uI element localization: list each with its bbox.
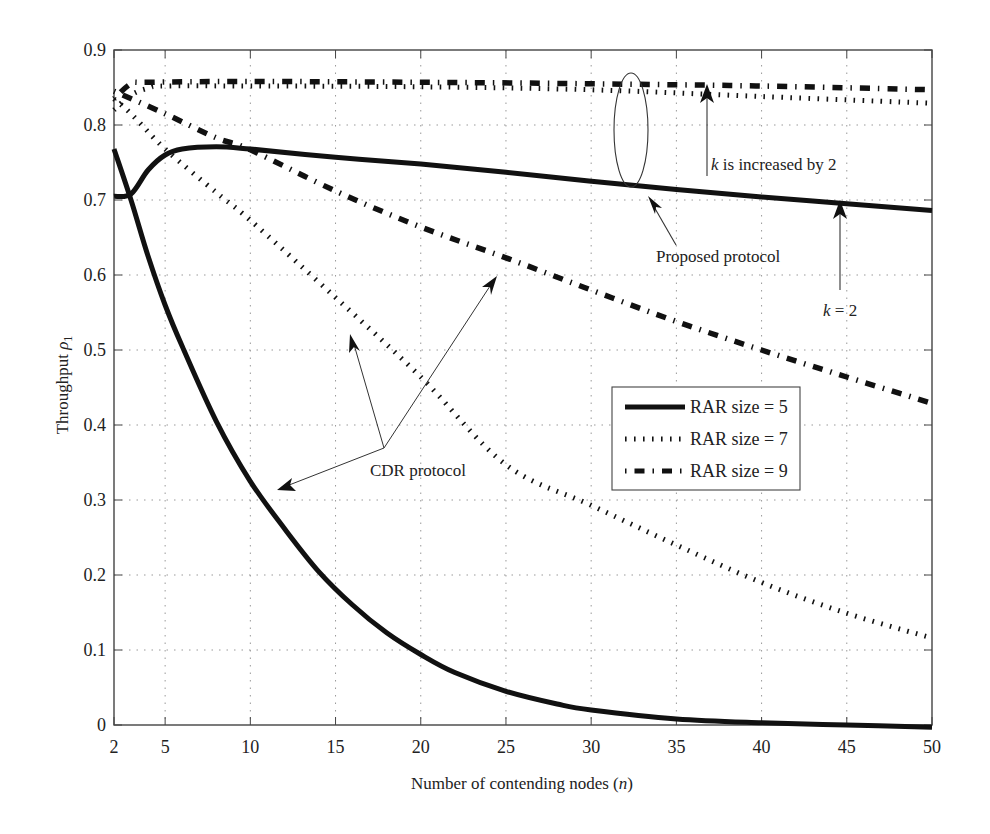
y-tick-label: 0.3 — [84, 490, 107, 510]
x-tick-label: 15 — [327, 737, 345, 757]
cdr-arrow-3 — [384, 283, 492, 448]
grid-lines — [114, 50, 932, 725]
y-tick-label: 0.7 — [84, 190, 107, 210]
k2-label: k = 2 — [823, 301, 857, 320]
y-tick-label: 0.9 — [84, 40, 107, 60]
series-line-5 — [114, 91, 932, 403]
throughput-chart: 2510152025303540455000.10.20.30.40.50.60… — [0, 0, 990, 834]
y-tick-label: 0.5 — [84, 340, 107, 360]
y-tick-label: 0.4 — [84, 415, 107, 435]
legend: RAR size = 5 RAR size = 7 RAR size = 9 — [612, 387, 800, 490]
x-tick-label: 10 — [241, 737, 259, 757]
x-tick-label: 2 — [110, 737, 119, 757]
legend-label-rar5: RAR size = 5 — [690, 397, 788, 417]
proposed-group-ellipse — [614, 73, 648, 187]
x-tick-label: 50 — [923, 737, 941, 757]
y-tick-label: 0.8 — [84, 115, 107, 135]
data-series — [114, 82, 932, 728]
series-line-3 — [114, 99, 932, 638]
x-axis-label: Number of contending nodes (n) — [411, 774, 633, 793]
cdr-arrow-2 — [353, 341, 384, 448]
x-tick-label: 45 — [838, 737, 856, 757]
y-axis-label: Throughput ρ1 — [53, 336, 75, 435]
x-tick-label: 40 — [753, 737, 771, 757]
x-tick-label: 35 — [667, 737, 685, 757]
y-tick-label: 0.2 — [84, 565, 107, 585]
x-tick-label: 30 — [582, 737, 600, 757]
x-tick-label: 25 — [497, 737, 515, 757]
y-tick-label: 0 — [97, 715, 106, 735]
y-tick-label: 0.1 — [84, 640, 107, 660]
x-tick-label: 20 — [412, 737, 430, 757]
series-line-1 — [114, 149, 932, 727]
cdr-protocol-label: CDR protocol — [370, 461, 466, 480]
legend-label-rar7: RAR size = 7 — [690, 429, 788, 449]
arrowhead-icon — [277, 478, 296, 491]
legend-label-rar9: RAR size = 9 — [690, 461, 788, 481]
proposed-protocol-label: Proposed protocol — [656, 247, 780, 266]
y-tick-label: 0.6 — [84, 265, 107, 285]
cdr-arrow-1 — [284, 448, 384, 487]
arrowhead-icon — [648, 196, 662, 214]
k-increased-label: k is increased by 2 — [711, 155, 837, 174]
proposed-arrow — [653, 205, 676, 245]
arrowhead-icon — [482, 276, 497, 295]
x-tick-label: 5 — [161, 737, 170, 757]
plot-frame — [114, 50, 932, 725]
